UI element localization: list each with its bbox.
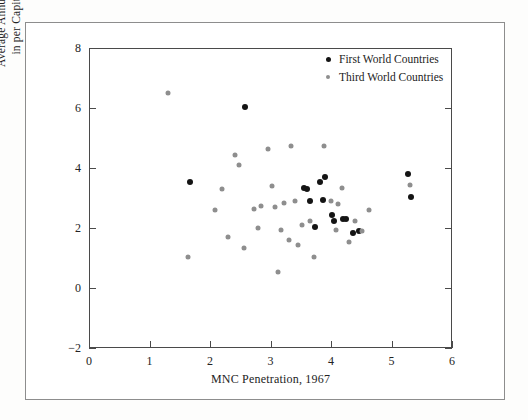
data-point (353, 218, 358, 223)
data-point (289, 143, 294, 148)
data-point (165, 91, 170, 96)
legend-marker-third-world-icon (322, 75, 334, 79)
data-point (251, 206, 256, 211)
y-axis-tick-right (445, 348, 452, 349)
data-point (331, 218, 337, 224)
figure-page: −2024680123456 Average Annual Percentage… (0, 0, 528, 420)
x-axis-tick-label: 6 (442, 354, 462, 369)
y-axis-tick-label: 4 (59, 161, 81, 176)
data-point (321, 143, 326, 148)
data-point (322, 174, 328, 180)
legend-entry-first-world: First World Countries (322, 50, 443, 68)
data-point (360, 229, 365, 234)
data-point (256, 226, 261, 231)
legend-label-first-world: First World Countries (339, 53, 439, 65)
y-axis-title-line1: Average Annual Percentage Growth (0, 0, 9, 96)
y-axis-title: Average Annual Percentage Growth in per … (0, 0, 24, 96)
legend-entry-third-world: Third World Countries (322, 68, 443, 86)
data-point (408, 194, 414, 200)
y-axis-tick-label: 8 (59, 41, 81, 56)
data-point (312, 254, 317, 259)
y-axis-tick-label: 6 (59, 101, 81, 116)
data-point (281, 200, 286, 205)
data-point (405, 171, 411, 177)
data-point (407, 182, 412, 187)
data-point (347, 239, 352, 244)
data-point (366, 208, 371, 213)
x-axis-title: MNC Penetration, 1967 (89, 372, 452, 387)
legend-marker-first-world-icon (322, 57, 334, 62)
data-point (233, 152, 238, 157)
data-point (343, 216, 349, 222)
data-point (258, 203, 263, 208)
data-point (187, 179, 193, 185)
x-axis-tick-label: 4 (321, 354, 341, 369)
y-axis-tick-label: 2 (59, 221, 81, 236)
data-point (296, 242, 301, 247)
y-axis-title-line2: in per Capita GNP, 1960–1982 (9, 0, 24, 96)
data-point (226, 235, 231, 240)
data-point (312, 224, 318, 230)
data-point (242, 245, 247, 250)
data-point (329, 199, 334, 204)
x-axis-tick-label: 0 (79, 354, 99, 369)
data-point (336, 202, 341, 207)
data-point (292, 199, 297, 204)
y-axis-tick (89, 348, 96, 349)
data-point (320, 197, 326, 203)
scatter-plot-area (89, 48, 452, 348)
x-axis-tick-label: 2 (200, 354, 220, 369)
data-point (266, 146, 271, 151)
data-point (307, 198, 313, 204)
data-point (220, 187, 225, 192)
data-point (286, 238, 291, 243)
x-axis-tick-label: 3 (261, 354, 281, 369)
x-axis-tick-label: 5 (382, 354, 402, 369)
data-point (185, 254, 190, 259)
legend-label-third-world: Third World Countries (339, 71, 443, 83)
data-point (333, 227, 338, 232)
data-point (308, 218, 313, 223)
y-axis-tick-label: −2 (59, 341, 81, 356)
data-point (299, 223, 304, 228)
y-axis-tick-label: 0 (59, 281, 81, 296)
legend: First World Countries Third World Countr… (322, 50, 443, 86)
data-point (304, 186, 310, 192)
data-point (279, 227, 284, 232)
data-point (275, 269, 280, 274)
x-axis-tick-label: 1 (140, 354, 160, 369)
data-point (269, 184, 274, 189)
x-axis-tick (452, 341, 453, 348)
data-point (212, 208, 217, 213)
data-point (339, 185, 344, 190)
data-point (273, 205, 278, 210)
data-point (237, 163, 242, 168)
data-point (242, 104, 248, 110)
